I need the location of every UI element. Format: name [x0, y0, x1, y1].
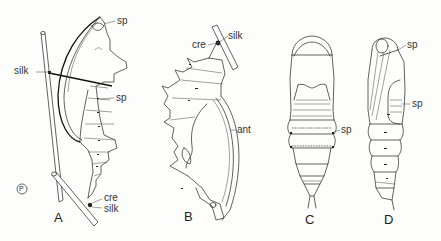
panel-d-drawing [368, 38, 410, 210]
label-a-spiracle-upper: sp [117, 16, 128, 26]
label-a-spiracle-abdominal: sp [116, 93, 127, 103]
label-c-spiracle: sp [341, 125, 352, 135]
panel-label-c: C [305, 213, 314, 226]
panel-label-b: B [184, 210, 193, 223]
label-b-cremaster: cre [192, 40, 206, 50]
copyright-mark: P [19, 185, 24, 192]
label-b-antenna: ant [237, 125, 251, 135]
pupa-diagram-figure: sp silk sp cre silk A P cre silk ant B s… [0, 0, 441, 241]
diagram-artwork [0, 0, 441, 241]
panel-label-d: D [384, 213, 393, 226]
label-b-silk: silk [228, 31, 242, 41]
label-a-silk-pad: silk [104, 204, 118, 214]
panel-b-drawing [162, 25, 239, 220]
label-a-silk-girdle: silk [14, 66, 28, 76]
label-d-spiracle-abdominal: sp [412, 99, 423, 109]
label-a-cremaster: cre [104, 193, 118, 203]
panel-c-drawing [288, 36, 340, 208]
panel-label-a: A [54, 211, 63, 224]
label-d-spiracle-upper: sp [407, 40, 418, 50]
